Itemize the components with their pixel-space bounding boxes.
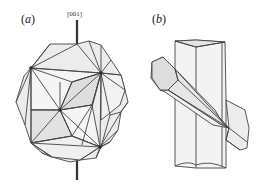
- crystal-b: [151, 40, 249, 168]
- figure: (a) [001] (b): [0, 0, 262, 191]
- crystal-a: [16, 20, 128, 180]
- crystal-drawings: [0, 0, 262, 191]
